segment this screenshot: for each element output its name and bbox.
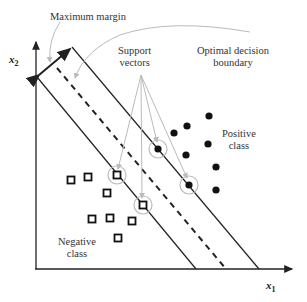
positive-point xyxy=(205,112,212,119)
negative-point xyxy=(140,202,147,209)
negative-point xyxy=(68,177,75,184)
negative-point xyxy=(129,218,136,225)
support-vectors-label: Support vectors xyxy=(118,45,151,69)
maximum-margin-arrow xyxy=(39,49,70,75)
positive-point xyxy=(212,186,219,193)
support-vector-pointers xyxy=(118,75,187,198)
positive-point xyxy=(204,140,211,147)
y-axis-label: x2 xyxy=(9,53,19,68)
maximum-margin-label: Maximum margin xyxy=(50,11,126,23)
support-vectors-line2: vectors xyxy=(118,57,151,69)
negative-point xyxy=(107,215,114,222)
positive-class-line2: class xyxy=(222,140,256,152)
maximum-margin-pointer xyxy=(50,22,60,62)
support-vectors-line1: Support xyxy=(118,45,151,57)
negative-point xyxy=(89,216,96,223)
negative-point xyxy=(115,235,122,242)
positive-class-label: Positive class xyxy=(222,128,256,152)
negative-point xyxy=(85,174,92,181)
positive-margin-line xyxy=(72,47,259,269)
negative-point xyxy=(104,190,111,197)
positive-point xyxy=(182,151,189,158)
positive-class-line1: Positive xyxy=(222,128,256,140)
negative-class-label: Negative class xyxy=(58,236,96,260)
negative-class-line1: Negative xyxy=(58,236,96,248)
optimal-boundary-line2: boundary xyxy=(197,57,269,69)
optimal-boundary-label: Optimal decision boundary xyxy=(197,45,269,69)
support-vector-rings xyxy=(108,140,198,214)
positive-point xyxy=(154,145,161,152)
positive-point xyxy=(185,181,192,188)
x-axis-label: x1 xyxy=(266,279,276,294)
positive-point xyxy=(212,163,219,170)
positive-point xyxy=(183,122,190,129)
positive-points xyxy=(154,112,219,193)
negative-point xyxy=(114,172,121,179)
positive-point xyxy=(170,129,177,136)
negative-class-line2: class xyxy=(58,248,96,260)
optimal-boundary-line1: Optimal decision xyxy=(197,45,269,57)
